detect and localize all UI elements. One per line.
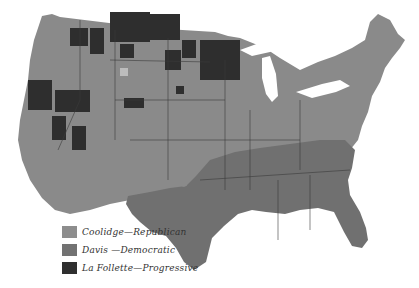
legend: Coolidge—Republican Davis —Democratic La… [62, 223, 198, 277]
legend-label: La Follette—Progressive [82, 263, 198, 273]
legend-label: Coolidge—Republican [82, 227, 187, 237]
republican-swatch [62, 226, 77, 238]
legend-item-democratic: Davis —Democratic [62, 241, 198, 259]
legend-label: Davis —Democratic [82, 245, 175, 255]
legend-item-republican: Coolidge—Republican [62, 223, 198, 241]
legend-item-progressive: La Follette—Progressive [62, 259, 198, 277]
light-county [120, 68, 128, 76]
progressive-swatch [62, 262, 77, 274]
democratic-swatch [62, 244, 77, 256]
